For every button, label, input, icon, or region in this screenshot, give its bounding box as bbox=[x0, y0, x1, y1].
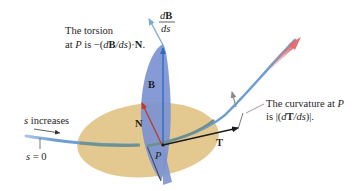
tangent-tick bbox=[238, 113, 243, 129]
curvature-label-line1: The curvature at P bbox=[266, 98, 344, 109]
frenet-frame-diagram: The torsion at P is −(dB/ds)·N. dB ds B … bbox=[0, 0, 359, 191]
s-zero-label: s = 0 bbox=[26, 151, 47, 162]
dBds-denominator: ds bbox=[161, 23, 170, 34]
label-N: N bbox=[135, 118, 143, 129]
dBds-numerator: dB bbox=[160, 10, 172, 21]
label-T: T bbox=[216, 137, 223, 148]
label-P: P bbox=[154, 150, 162, 161]
s-increases-arrow bbox=[34, 129, 60, 133]
torsion-label-line2: at P is −(dB/ds)·N. bbox=[65, 39, 145, 51]
label-B: B bbox=[148, 79, 155, 90]
direction-arrow bbox=[268, 46, 293, 70]
curvature-leader bbox=[246, 104, 264, 113]
curvature-label-line2: is |(dT/ds)|. bbox=[266, 111, 314, 123]
s-increases-label: s increases bbox=[24, 115, 69, 126]
torsion-label-line1: The torsion bbox=[65, 25, 114, 36]
point-P-dot bbox=[161, 143, 164, 146]
